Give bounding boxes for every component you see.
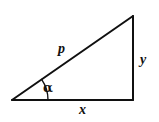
vertical-leg-label: y — [140, 53, 146, 67]
angle-label-alpha: α — [43, 81, 53, 94]
triangle-diagram: p y x α — [0, 0, 159, 122]
horizontal-leg-label: x — [79, 103, 86, 117]
hypotenuse-label: p — [58, 42, 65, 56]
